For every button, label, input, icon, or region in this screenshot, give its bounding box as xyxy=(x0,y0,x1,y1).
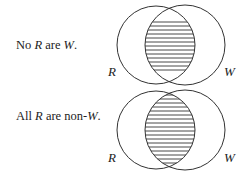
venn-diagram-2: R W xyxy=(0,86,248,172)
label-r: R xyxy=(107,64,116,79)
shaded-intersection xyxy=(140,95,200,163)
circle-w xyxy=(145,90,225,170)
label-w: W xyxy=(224,150,236,165)
circle-w xyxy=(145,5,225,85)
venn-row-2: All R are non-W. R W xyxy=(0,86,248,172)
label-w: W xyxy=(224,64,236,79)
venn-diagram-1: R W xyxy=(0,0,248,86)
label-r: R xyxy=(107,150,116,165)
venn-row-1: No R are W. R W xyxy=(0,0,248,86)
